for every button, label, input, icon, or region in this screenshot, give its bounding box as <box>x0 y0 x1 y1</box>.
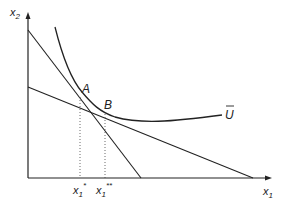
x-axis-label: x1 <box>262 185 273 200</box>
x1-star-label: x1* <box>72 181 87 199</box>
point-a-label: A <box>81 82 90 96</box>
curve-u-label: U <box>225 108 234 122</box>
x-axis-arrow-icon <box>265 176 272 181</box>
y-axis-arrow-icon <box>26 12 31 19</box>
point-b-label: B <box>104 98 112 112</box>
y-axis-label: x2 <box>9 6 21 21</box>
x1-double-star-label: x1** <box>95 181 113 199</box>
indifference-curve <box>55 27 222 121</box>
steep-budget-line <box>28 30 141 178</box>
shallow-budget-line <box>28 87 253 178</box>
economics-diagram: x2 x1 A B U x1* x1** <box>0 0 282 204</box>
